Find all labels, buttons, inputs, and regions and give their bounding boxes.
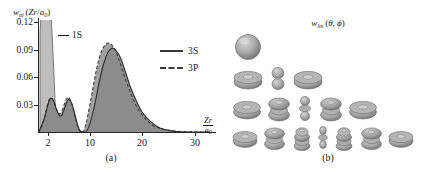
- x-tick-label: 10: [85, 137, 95, 148]
- x-axis-label: Zr a0: [203, 116, 213, 135]
- x-tick-mark: [142, 132, 143, 136]
- y-tick-label-wrap: 0.09: [0, 45, 33, 55]
- x-tick-label: 2: [46, 137, 51, 148]
- orbital-shape-double-torus-icon: [316, 94, 346, 124]
- orbital-shape-double-torus-icon: [357, 124, 386, 152]
- x-tick-label: 20: [137, 137, 147, 148]
- figure-container: wnl (Zr/a0) 0.12 0.09 0.06 0.03 2 10 20 …: [0, 0, 434, 179]
- orbital-cell: [289, 124, 315, 152]
- legend-label-3s: 3S: [188, 46, 198, 56]
- y-tick-label: 0.12: [16, 17, 33, 27]
- y-tick-label-wrap: 0.03: [0, 100, 33, 110]
- orbital-shape-dumbbell-lobed-icon: [294, 94, 316, 124]
- orbital-cell: [316, 94, 346, 124]
- orbital-cell: [315, 124, 331, 152]
- legend-swatch-solid-icon: [160, 50, 183, 52]
- orbital-cell: [386, 124, 416, 152]
- orbital-shape-double-torus-icon: [260, 124, 289, 152]
- orbital-shape-torus-icon: [290, 65, 326, 93]
- x-tick-mark: [90, 132, 91, 136]
- y-tick-label: 0.06: [16, 72, 33, 82]
- x-tick-mark: [48, 132, 49, 136]
- legend-label-3p: 3P: [188, 63, 198, 73]
- y-tick-label-wrap: 0.06: [0, 72, 33, 82]
- orbital-cell: [230, 94, 264, 124]
- orbital-shape-torus-icon: [230, 124, 260, 152]
- leader-line: [58, 35, 69, 36]
- orbital-cell: [331, 124, 357, 152]
- x-tick-label: 30: [190, 137, 200, 148]
- legend-item-3p: 3P: [160, 59, 218, 76]
- orbital-shape-triple-torus-icon: [331, 124, 357, 152]
- orbital-cell: [294, 94, 316, 124]
- orbital-shape-torus-icon: [386, 124, 416, 152]
- orbital-shape-torus-icon: [230, 65, 266, 93]
- annotation-1s: 1S: [58, 30, 82, 40]
- x-axis-label-denominator: a0: [203, 126, 213, 136]
- orbital-shape-sphere-icon: [233, 32, 263, 62]
- orbital-cell: [260, 124, 289, 152]
- panel-a-radial-distribution: wnl (Zr/a0) 0.12 0.09 0.06 0.03 2 10 20 …: [0, 0, 222, 179]
- orbital-shape-double-torus-icon: [264, 94, 294, 124]
- x-tick-mark: [195, 132, 196, 136]
- panel-b-title: wlm (θ, ϕ): [222, 18, 434, 29]
- y-tick-label: 0.03: [16, 100, 33, 110]
- orbital-row-l0: [230, 32, 433, 62]
- orbital-cell: [357, 124, 386, 152]
- orbital-shape-triple-torus-icon: [289, 124, 315, 152]
- orbital-row-l3: [230, 124, 430, 152]
- orbital-shape-dumbbell-lobed-icon: [315, 124, 331, 152]
- orbital-cell: [290, 65, 326, 93]
- orbital-cell: [230, 65, 266, 93]
- y-axis-label: wnl (Zr/a0): [13, 7, 50, 18]
- y-tick-label: 0.09: [16, 45, 33, 55]
- legend-item-3s: 3S: [160, 42, 218, 59]
- legend: 3S 3P: [160, 42, 218, 76]
- y-tick-label-wrap: 0.12: [0, 17, 33, 27]
- panel-b-angular-distribution: wlm (θ, ϕ): [222, 0, 434, 179]
- orbital-row-l2: [230, 94, 430, 124]
- panel-b-caption: (b): [222, 152, 434, 163]
- orbital-shape-torus-icon: [346, 94, 380, 124]
- orbital-shape-torus-icon: [230, 94, 264, 124]
- panel-a-caption: (a): [0, 152, 222, 163]
- orbital-cell: [230, 124, 260, 152]
- orbital-row-l1: [230, 65, 430, 93]
- annotation-1s-label: 1S: [72, 30, 82, 40]
- x-axis-line: [38, 132, 216, 133]
- orbital-shape-dumbbell-icon: [266, 65, 290, 93]
- legend-swatch-dashed-icon: [160, 67, 183, 69]
- orbital-cell: [266, 65, 290, 93]
- orbital-shape-grid: [230, 32, 430, 147]
- orbital-cell: [264, 94, 294, 124]
- orbital-cell: [346, 94, 380, 124]
- orbital-cell: [233, 32, 263, 62]
